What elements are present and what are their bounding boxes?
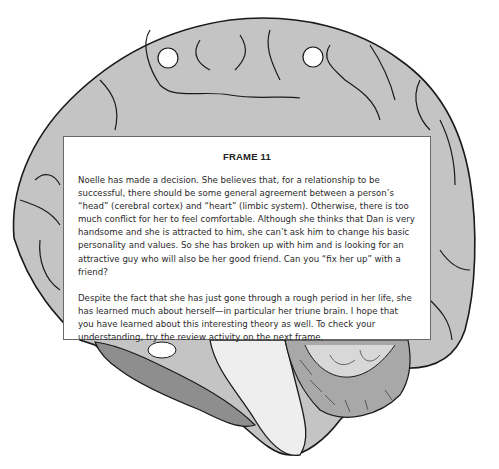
frame-title: FRAME 11 [78, 151, 416, 162]
hole-right [303, 47, 323, 67]
paragraph-review: Despite the fact that she has just gone … [78, 292, 416, 344]
frame-text-box: FRAME 11 Noelle has made a decision. She… [63, 136, 431, 340]
paragraph-decision: Noelle has made a decision. She believes… [78, 174, 416, 279]
hole-left [158, 48, 178, 68]
